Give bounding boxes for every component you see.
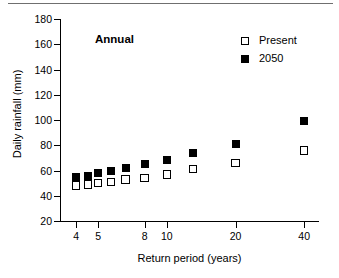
- legend-label: Present: [259, 33, 297, 48]
- data-point-2050: [84, 172, 92, 180]
- y-axis-tick-label-text: 140: [26, 65, 52, 75]
- x-axis-tick-label: 20: [224, 231, 248, 242]
- y-axis-tick: [54, 95, 60, 96]
- y-axis-tick-label: 160: [22, 39, 52, 49]
- x-axis-tick: [98, 222, 99, 228]
- y-axis-tick-label: 60: [22, 166, 52, 176]
- x-axis-tick: [167, 222, 168, 228]
- y-axis-tick-label-text: 120: [26, 90, 52, 100]
- y-axis-tick-label: 180: [22, 14, 52, 24]
- y-axis-tick: [54, 120, 60, 121]
- header-rule: [8, 3, 333, 4]
- data-point-present: [84, 180, 93, 189]
- x-axis-tick: [145, 222, 146, 228]
- data-point-present: [300, 146, 309, 155]
- y-axis-tick-label-text: 160: [26, 39, 52, 49]
- x-axis-tick-label: 4: [64, 231, 88, 242]
- data-point-2050: [189, 149, 197, 157]
- y-axis-tick-label: 80: [22, 140, 52, 150]
- y-axis-tick-label: 20: [22, 216, 52, 226]
- plot-area: [60, 19, 318, 221]
- y-axis-tick: [54, 221, 60, 222]
- y-axis-tick-label-text: 40: [26, 191, 52, 201]
- data-point-2050: [107, 167, 115, 175]
- figure-container: 20406080100120140160180 458102040 Annual…: [0, 0, 339, 278]
- y-axis-tick: [54, 145, 60, 146]
- y-axis-tick: [54, 196, 60, 197]
- y-axis-tick-label: 40: [22, 191, 52, 201]
- x-axis-title: Return period (years): [60, 252, 319, 264]
- y-axis-title: Daily rainfall (mm): [11, 34, 23, 194]
- data-point-2050: [122, 164, 130, 172]
- y-axis-tick-label: 140: [22, 65, 52, 75]
- panel-annotation: Annual: [95, 33, 134, 45]
- x-axis-tick-label: 40: [292, 231, 316, 242]
- data-point-present: [94, 179, 103, 188]
- y-axis-tick-label-text: 20: [26, 216, 52, 226]
- y-axis-tick-label: 100: [22, 115, 52, 125]
- data-point-2050: [300, 117, 308, 125]
- legend-label: 2050: [259, 51, 283, 66]
- y-axis-tick: [54, 171, 60, 172]
- data-point-2050: [94, 169, 102, 177]
- filled-square-icon: [241, 55, 249, 63]
- data-point-2050: [163, 156, 171, 164]
- data-point-present: [231, 159, 240, 168]
- y-axis-tick-label: 120: [22, 90, 52, 100]
- y-axis-tick: [54, 44, 60, 45]
- y-axis-line: [60, 19, 61, 222]
- y-axis-tick-label-text: 100: [26, 115, 52, 125]
- x-axis-tick-label: 5: [86, 231, 110, 242]
- y-axis-tick-label-text: 80: [26, 140, 52, 150]
- open-square-icon: [241, 37, 249, 45]
- y-axis-tick-label-text: 180: [26, 14, 52, 24]
- x-axis-tick: [304, 222, 305, 228]
- data-point-2050: [72, 173, 80, 181]
- data-point-present: [163, 170, 172, 179]
- x-axis-tick-label: 10: [155, 231, 179, 242]
- data-point-present: [121, 175, 130, 184]
- y-axis-tick-label-text: 60: [26, 166, 52, 176]
- x-axis-tick: [76, 222, 77, 228]
- y-axis-tick: [54, 70, 60, 71]
- data-point-present: [140, 174, 149, 183]
- data-point-2050: [141, 160, 149, 168]
- data-point-present: [189, 165, 198, 174]
- y-axis-tick: [54, 19, 60, 20]
- data-point-present: [72, 181, 81, 190]
- x-axis-tick: [236, 222, 237, 228]
- data-point-present: [107, 178, 116, 187]
- x-axis-tick-label: 8: [133, 231, 157, 242]
- data-point-2050: [232, 140, 240, 148]
